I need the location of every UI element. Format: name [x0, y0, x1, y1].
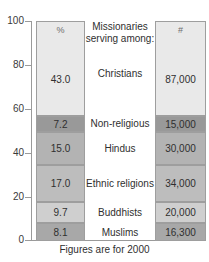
- bar-segment-ethnic-religions-percent[interactable]: 17.0: [36, 165, 85, 202]
- category-label-column: Christians Non-religious Hindus Ethnic r…: [86, 21, 154, 240]
- bar-segment-buddhists-count[interactable]: 20,000: [155, 202, 206, 223]
- segment-value-hindus-percent: 15.0: [51, 143, 70, 154]
- bar-segment-christians-percent[interactable]: % 43.0: [36, 21, 85, 116]
- y-axis-tick-100: [25, 21, 31, 22]
- percent-column-header: %: [56, 25, 64, 35]
- stacked-bar-chart: 100 80 60 40 20 0 Missionaries serving a…: [0, 0, 209, 262]
- y-axis-label-100: 100: [0, 16, 24, 26]
- category-label-hindus: Hindus: [86, 143, 154, 154]
- category-label-buddhists: Buddhists: [86, 207, 154, 218]
- bar-segment-muslims-count[interactable]: 16,300: [155, 223, 206, 241]
- segment-value-ethnic-religions-count: 34,000: [165, 178, 196, 189]
- y-axis-line: [31, 21, 32, 241]
- category-label-muslims: Muslims: [86, 227, 154, 238]
- bar-segment-buddhists-percent[interactable]: 9.7: [36, 202, 85, 223]
- segment-value-ethnic-religions-percent: 17.0: [51, 178, 70, 189]
- y-axis-tick-60: [25, 109, 31, 110]
- bar-segment-non-religious-count[interactable]: 15,000: [155, 116, 206, 132]
- segment-value-buddhists-percent: 9.7: [54, 207, 68, 218]
- y-axis-tick-80: [25, 65, 31, 66]
- category-label-christians: Christians: [86, 68, 154, 79]
- bar-segment-hindus-count[interactable]: 30,000: [155, 132, 206, 165]
- bar-segment-ethnic-religions-count[interactable]: 34,000: [155, 165, 206, 202]
- bar-segment-hindus-percent[interactable]: 15.0: [36, 132, 85, 165]
- bar-segment-christians-count[interactable]: # 87,000: [155, 21, 206, 116]
- y-axis-label-80: 80: [0, 60, 24, 70]
- y-axis-label-40: 40: [0, 148, 24, 158]
- segment-value-buddhists-count: 20,000: [165, 207, 196, 218]
- segment-value-non-religious-percent: 7.2: [54, 119, 68, 130]
- y-axis-tick-40: [25, 153, 31, 154]
- y-axis-tick-0: [25, 240, 31, 241]
- category-label-non-religious: Non-religious: [86, 118, 154, 129]
- bar-segment-muslims-percent[interactable]: 8.1: [36, 223, 85, 241]
- segment-value-non-religious-count: 15,000: [165, 119, 196, 130]
- segment-value-muslims-percent: 8.1: [54, 227, 68, 238]
- segment-value-christians-count: 87,000: [156, 74, 205, 85]
- segment-value-christians-percent: 43.0: [37, 74, 84, 85]
- percent-bar: % 43.0 7.2 15.0 17.0 9.7 8.1: [36, 21, 85, 241]
- bar-segment-non-religious-percent[interactable]: 7.2: [36, 116, 85, 132]
- category-label-ethnic-religions: Ethnic religions: [86, 178, 154, 189]
- chart-footnote: Figures are for 2000: [0, 244, 209, 255]
- y-axis-label-60: 60: [0, 104, 24, 114]
- y-axis-label-20: 20: [0, 192, 24, 202]
- segment-value-hindus-count: 30,000: [165, 143, 196, 154]
- segment-value-muslims-count: 16,300: [165, 227, 196, 238]
- count-bar: # 87,000 15,000 30,000 34,000 20,000 16,…: [155, 21, 206, 241]
- y-axis-tick-20: [25, 197, 31, 198]
- count-column-header: #: [178, 25, 183, 35]
